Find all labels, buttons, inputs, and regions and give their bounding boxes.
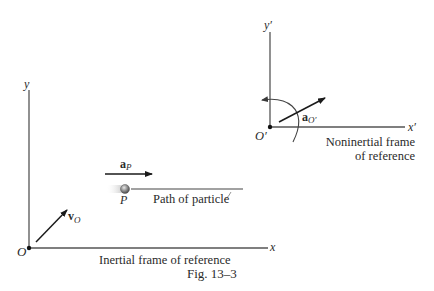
velocity-vector-label: vO <box>68 209 81 225</box>
noninertial-frame-caption-line2: of reference <box>355 149 415 163</box>
inertial-frame-caption: Inertial frame of reference <box>99 253 231 267</box>
noninertial-frame: y′ x′ O′ Noninertial frame of reference … <box>255 18 416 163</box>
noninertial-origin-dot <box>268 125 272 129</box>
inertial-origin-dot <box>27 246 31 250</box>
inertial-y-label: y <box>23 77 30 91</box>
noninertial-frame-caption-line1: Noninertial frame <box>326 135 416 149</box>
velocity-vector-arrow <box>36 210 67 242</box>
noninertial-origin-label: O′ <box>255 129 267 143</box>
noninertial-x-label: x′ <box>407 120 416 134</box>
inertial-origin-label: O <box>17 244 27 259</box>
noninertial-y-label: y′ <box>263 18 272 32</box>
frame-acceleration-label: aO′ <box>302 110 317 125</box>
particle-label: P <box>119 193 128 207</box>
particle-group: P Path of particle aP <box>105 157 243 207</box>
figure-caption: Fig. 13–3 <box>187 266 237 281</box>
path-of-particle-label: Path of particle <box>153 192 230 206</box>
inertial-x-label: x <box>269 240 276 254</box>
inertial-frame: y x O Inertial frame of reference vO <box>17 77 276 267</box>
diagram-canvas: y x O Inertial frame of reference vO P P… <box>0 0 434 291</box>
particle-acceleration-label: aP <box>120 157 132 172</box>
